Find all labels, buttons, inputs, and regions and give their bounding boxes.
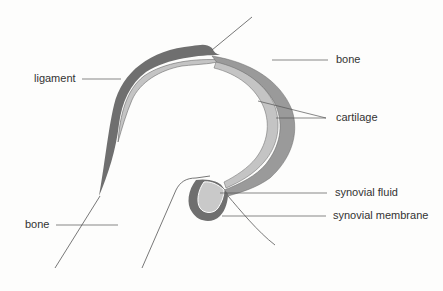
cartilage-label: cartilage — [336, 112, 378, 123]
diagram-graphic — [0, 0, 443, 291]
bone-bottom-label: bone — [25, 219, 49, 230]
bone-top-label: bone — [336, 54, 360, 65]
synovial-fluid-label: synovial fluid — [335, 187, 398, 198]
synovial-joint-diagram: ligament bone cartilage synovial fluid s… — [0, 0, 443, 291]
synovial-membrane-label: synovial membrane — [333, 210, 428, 221]
outer-cartilage-shape — [212, 56, 295, 196]
bone-left-outline — [55, 196, 100, 268]
bone-top-outline — [212, 17, 252, 50]
bone-lower-right-outline — [228, 196, 275, 245]
ligament-label: ligament — [34, 73, 76, 84]
ligament-shape — [99, 45, 220, 196]
